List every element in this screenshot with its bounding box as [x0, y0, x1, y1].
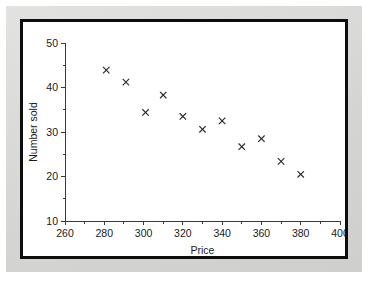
data-point [219, 118, 225, 124]
x-tick-label: 360 [253, 227, 271, 239]
y-tick-label: 30 [46, 126, 58, 138]
data-point [160, 92, 166, 98]
figure-frame: 1020304050260280300320340360380400PriceN… [20, 19, 348, 259]
data-point [180, 113, 186, 119]
x-tick-label: 280 [96, 227, 114, 239]
data-point [103, 67, 109, 73]
x-tick-label: 320 [174, 227, 192, 239]
data-point [278, 158, 284, 164]
y-axis-title: Number sold [27, 102, 39, 162]
plot-surface: 1020304050260280300320340360380400PriceN… [23, 22, 345, 256]
y-tick-label: 40 [46, 81, 58, 93]
x-axis-title: Price [191, 244, 215, 256]
data-point [123, 79, 129, 85]
data-point [258, 135, 264, 141]
x-tick-label: 300 [135, 227, 153, 239]
x-tick-label: 340 [213, 227, 231, 239]
data-point [142, 109, 148, 115]
screenshot-root: 1020304050260280300320340360380400PriceN… [0, 0, 368, 287]
data-point [298, 171, 304, 177]
x-tick-label: 380 [292, 227, 310, 239]
y-tick-label: 50 [46, 37, 58, 49]
x-tick-label: 260 [56, 227, 74, 239]
y-tick-label: 20 [46, 170, 58, 182]
scatter-chart: 1020304050260280300320340360380400PriceN… [23, 22, 345, 256]
data-point [239, 143, 245, 149]
y-tick-label: 10 [46, 215, 58, 227]
data-point [199, 126, 205, 132]
x-tick-label: 400 [331, 227, 345, 239]
